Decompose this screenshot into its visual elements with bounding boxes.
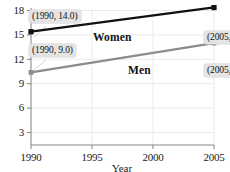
callout-men-1990: (1990, 9.0) (29, 44, 76, 57)
line-chart: 18 15 12 9 6 3 1990 1995 2000 2005 Year … (0, 0, 230, 172)
x-tick-label-2005: 2005 (194, 152, 230, 163)
y-tick-label-3: 3 (2, 127, 24, 138)
y-tick-label-15: 15 (2, 29, 24, 40)
callout-women-1990: (1990, 14.0) (29, 10, 81, 23)
x-tick-marks (31, 145, 214, 149)
y-tick-label-12: 12 (2, 54, 24, 65)
series-label-women: Women (93, 31, 132, 43)
y-tick-label-9: 9 (2, 78, 24, 89)
data-point-women-2005 (211, 5, 216, 10)
x-tick-label-1995: 1995 (72, 152, 112, 163)
callout-women-2005: (2005, (204, 31, 230, 44)
series-label-men: Men (128, 64, 151, 76)
x-axis-title: Year (92, 163, 152, 172)
data-point-men-1990 (29, 70, 34, 75)
callout-men-2005: (2005, (204, 64, 230, 77)
y-tick-label-6: 6 (2, 102, 24, 113)
x-tick-label-2000: 2000 (133, 152, 173, 163)
x-tick-label-1990: 1990 (11, 152, 51, 163)
data-point-women-1990 (28, 29, 33, 34)
chart-canvas (0, 0, 230, 172)
y-tick-label-18: 18 (2, 5, 24, 16)
